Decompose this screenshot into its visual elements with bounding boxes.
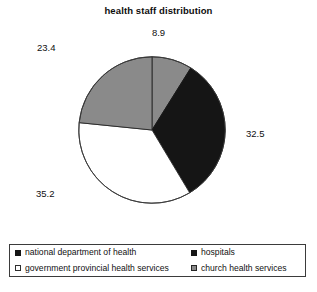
pie-plot-area bbox=[78, 56, 226, 204]
legend-item-church-health-services[interactable]: church health services bbox=[191, 264, 305, 273]
legend-item-label: church health services bbox=[201, 264, 287, 273]
legend-swatch-icon bbox=[15, 265, 21, 271]
pie-svg bbox=[78, 56, 226, 204]
legend-item-label: hospitals bbox=[201, 248, 235, 257]
slice-value-label-national-department-of-health: 32.5 bbox=[246, 128, 265, 139]
chart-title: health staff distribution bbox=[0, 5, 317, 16]
slice-value-label-hospitals: 8.9 bbox=[0, 27, 317, 38]
chart-legend: national department of health hospitals … bbox=[9, 244, 306, 277]
legend-swatch-icon bbox=[15, 250, 21, 256]
legend-item-label: government provincial health services bbox=[25, 264, 169, 273]
legend-item-government-provincial-health-services[interactable]: government provincial health services bbox=[15, 264, 191, 273]
slice-value-label-government-provincial-health-services: 35.2 bbox=[36, 188, 55, 199]
slice-value-label-church-health-services: 23.4 bbox=[37, 42, 56, 53]
legend-item-national-department-of-health[interactable]: national department of health bbox=[15, 248, 191, 257]
legend-swatch-icon bbox=[191, 250, 197, 256]
legend-item-label: national department of health bbox=[25, 248, 136, 257]
legend-swatch-icon bbox=[191, 265, 197, 271]
pie-chart-figure: health staff distribution 8.9 32.5 35.2 … bbox=[0, 0, 317, 292]
pie-slice-group bbox=[79, 57, 225, 203]
pie-slice-church-health-services[interactable] bbox=[79, 57, 152, 130]
legend-item-hospitals[interactable]: hospitals bbox=[191, 248, 305, 257]
